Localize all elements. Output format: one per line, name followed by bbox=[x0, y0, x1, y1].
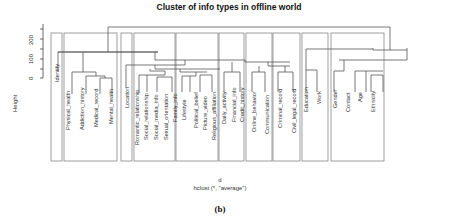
leaf-label: Gender bbox=[332, 89, 338, 108]
leaf-label: Picture_video bbox=[202, 96, 208, 130]
leaf-label: Religious_affiliation bbox=[211, 92, 217, 140]
y-tick-0: 0 bbox=[28, 76, 34, 80]
leaf-label: Daily_activity bbox=[221, 91, 227, 124]
leaf-label: Lifestyle bbox=[181, 99, 187, 120]
leaf-label: Social_media_info bbox=[153, 94, 159, 140]
figure-caption: (b) bbox=[215, 204, 226, 214]
y-axis-label: Height bbox=[12, 94, 18, 112]
dendrogram-branches bbox=[58, 27, 407, 94]
leaf-label: Criminal_record bbox=[277, 89, 283, 128]
leaf-label: Location bbox=[124, 87, 130, 108]
leaf-label: Political_belief bbox=[193, 92, 199, 128]
y-tick-200: 200 bbox=[28, 34, 34, 45]
leaf-label: Physical_health bbox=[65, 91, 71, 130]
leaf-label: Family_info bbox=[172, 93, 178, 122]
leaf-label: Ethnicity bbox=[370, 91, 376, 112]
leaf-label: Civil_legal_record bbox=[291, 89, 297, 133]
leaf-label: Education bbox=[303, 87, 309, 112]
leaf-label: Romantic_relationship bbox=[134, 90, 140, 145]
leaf-label: Work bbox=[316, 91, 322, 104]
leaf-label: Medical_record bbox=[93, 89, 99, 127]
method-sublabel: hclust (*, "average") bbox=[194, 185, 247, 191]
chart-title: Cluster of info types in offline world bbox=[157, 2, 302, 12]
y-axis: 0 100 200 Height bbox=[12, 24, 43, 112]
leaf-label: Mental_health bbox=[108, 89, 114, 124]
x-axis-label: d bbox=[218, 177, 221, 183]
y-tick-100: 100 bbox=[28, 53, 34, 64]
leaf-label: Communication bbox=[264, 95, 270, 134]
leaf-label: Contact bbox=[345, 92, 351, 112]
leaf-label: Age bbox=[357, 92, 363, 102]
leaf-label: Social_relationship bbox=[143, 93, 149, 140]
leaf-label: Sexual_orientation bbox=[163, 94, 169, 140]
leaf-label: Addiction_history bbox=[79, 87, 85, 130]
leaf-label: Credit_history bbox=[239, 87, 245, 122]
leaf-label: Financial_info bbox=[231, 87, 237, 122]
dendrogram-chart: Cluster of info types in offline world 0… bbox=[0, 0, 458, 223]
leaf-label: Online_behavior bbox=[251, 91, 257, 132]
leaf-label: Identify bbox=[54, 64, 60, 82]
